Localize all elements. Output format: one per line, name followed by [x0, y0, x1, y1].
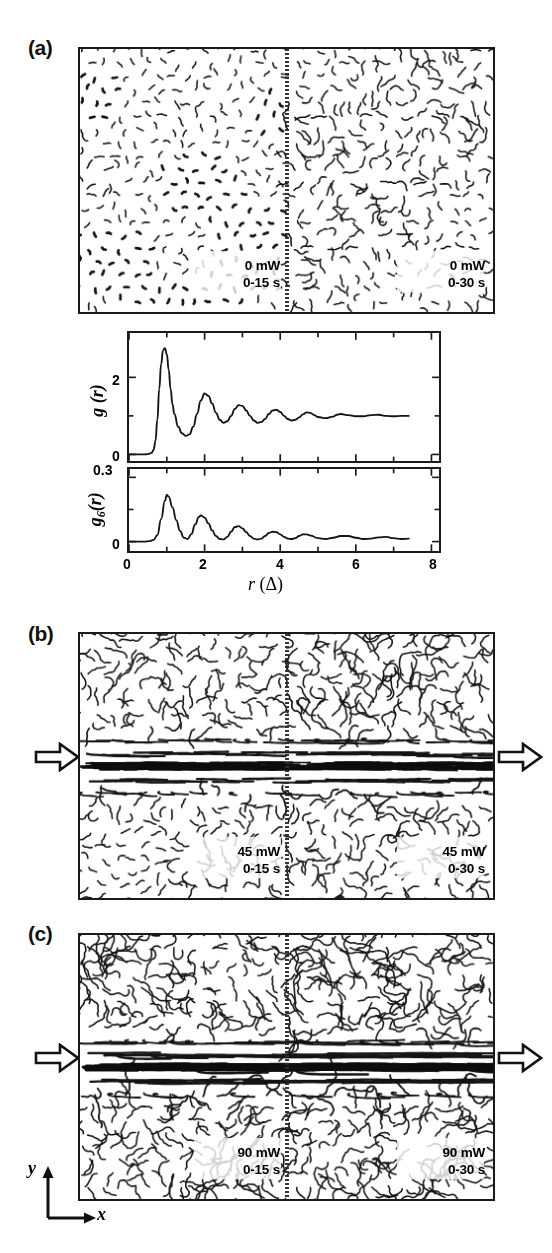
shear-direction-arrow-left-c	[34, 1043, 80, 1073]
panel-label-c: (c)	[28, 922, 52, 946]
trajectory-panel-b: 45 mW 0-15 s 45 mW 0-30 s	[78, 632, 495, 900]
xtick-0: 0	[123, 556, 131, 572]
panel-c-right-tag: 90 mW 0-30 s	[403, 1144, 485, 1179]
xtick-8: 8	[429, 556, 437, 572]
xtick-2: 2	[199, 556, 207, 572]
g6r-ytick-03: 0.3	[93, 462, 112, 478]
gr-ytick-0: 0	[112, 448, 120, 464]
plot-frame-gr	[127, 331, 441, 463]
shear-direction-arrow-right-b	[497, 742, 543, 772]
g6r-ytick-0: 0	[112, 536, 120, 552]
axis-indicator-arrows	[36, 1160, 106, 1224]
plot-svg-gr	[129, 333, 439, 461]
g6r-axis-title: g6(r)	[85, 484, 110, 534]
axis-indicator-x-label: x	[97, 1204, 106, 1225]
plot-svg-g6r	[129, 469, 439, 551]
shear-direction-arrow-right-c	[497, 1043, 543, 1073]
xtick-6: 6	[352, 556, 360, 572]
correlation-plot-block: 2 0 0.3 0 g (r) g6(r) 0 2 4 6 8 r (Δ)	[0, 0, 552, 600]
shear-direction-arrow-left-b	[34, 742, 80, 772]
panel-b-left-tag: 45 mW 0-15 s	[198, 843, 280, 878]
plot-frame-g6r	[127, 467, 441, 553]
gr-axis-title: g (r)	[87, 379, 108, 423]
panel-divider-c	[285, 935, 289, 1199]
panel-divider-b	[285, 634, 289, 898]
xtick-4: 4	[276, 556, 284, 572]
axis-indicator-y-label: y	[28, 1158, 36, 1179]
x-axis-title: r (Δ)	[248, 574, 283, 595]
panel-c-left-tag: 90 mW 0-15 s	[198, 1144, 280, 1179]
axis-indicator: y x	[36, 1160, 116, 1230]
panel-b-right-tag: 45 mW 0-30 s	[403, 843, 485, 878]
panel-label-b: (b)	[28, 622, 53, 646]
gr-ytick-2: 2	[112, 372, 120, 388]
trajectory-panel-c: 90 mW 0-15 s 90 mW 0-30 s	[78, 933, 495, 1201]
